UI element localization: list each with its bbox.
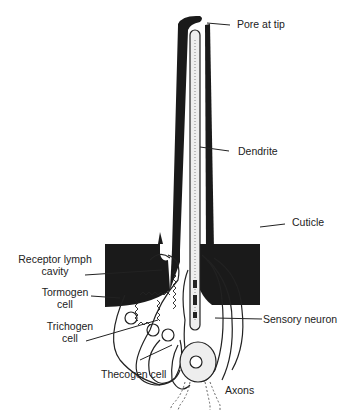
pore-label: Pore at tip [237, 18, 285, 30]
receptor-lymph-line2: cavity [15, 265, 95, 277]
tormogen-line2: cell [35, 298, 95, 310]
dendrite-shape [190, 30, 200, 330]
axons-shape [170, 382, 220, 410]
sensillum-diagram [0, 0, 351, 410]
sensory-neuron-label: Sensory neuron [263, 313, 337, 325]
trichogen-line2: cell [40, 332, 100, 344]
thecogen-label: Thecogen cell [101, 368, 166, 380]
tormogen-line1: Tormogen [35, 286, 95, 298]
receptor-lymph-line1: Receptor lymph [15, 253, 95, 265]
trichogen-line1: Trichogen [40, 320, 100, 332]
axons-label: Axons [225, 384, 254, 396]
cuticle-shape [105, 232, 260, 307]
cuticle-label: Cuticle [292, 216, 324, 228]
tormogen-label: Tormogen cell [35, 286, 95, 310]
trichogen-label: Trichogen cell [40, 320, 100, 344]
dendrite-label: Dendrite [238, 145, 278, 157]
receptor-lymph-label: Receptor lymph cavity [15, 253, 95, 277]
sensory-neuron-shape [180, 342, 216, 382]
